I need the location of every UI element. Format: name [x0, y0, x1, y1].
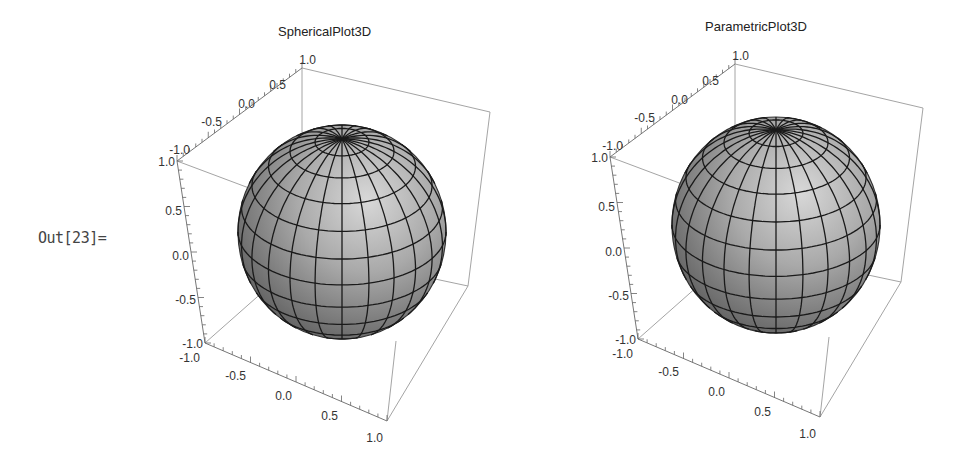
x-tick-label: 0.5 [321, 409, 338, 423]
plot-canvas[interactable]: 1.00.50.0-0.5-1.0-1.0-0.50.00.51.0-1.0-0… [0, 0, 478, 469]
y-tick-label: 0.0 [238, 97, 255, 111]
z-tick-label: 1.0 [591, 151, 608, 165]
z-tick-label: -1.0 [182, 337, 203, 351]
z-tick-label: 0.0 [605, 245, 622, 259]
y-tick-label: 0.5 [702, 74, 719, 88]
x-tick-label: 1.0 [799, 427, 816, 441]
box-edge [901, 108, 923, 282]
x-tick-label: -0.5 [658, 365, 679, 379]
z-tick-label: 0.5 [165, 204, 182, 218]
y-tick-label: 0.5 [269, 78, 286, 92]
x-tick-label: -1.0 [179, 351, 200, 365]
z-tick-label: -0.5 [608, 289, 629, 303]
y-tick-label: -1.0 [169, 143, 190, 157]
z-tick-label: -0.5 [175, 293, 196, 307]
z-tick-label: 0.5 [598, 200, 615, 214]
x-tick-label: -1.0 [612, 347, 633, 361]
y-tick-label: -0.5 [634, 111, 655, 125]
box-edge [735, 64, 923, 108]
x-tick-label: 0.0 [708, 385, 725, 399]
y-tick-label: 1.0 [299, 53, 316, 67]
z-tick-label: 0.0 [172, 249, 189, 263]
spherical-plot-3d[interactable]: SphericalPlot3D 1.00.50.0-0.5-1.0-1.0-0.… [0, 0, 478, 469]
z-tick-label: -1.0 [615, 333, 636, 347]
x-tick-label: 1.0 [366, 431, 383, 445]
x-tick-label: 0.5 [754, 405, 771, 419]
y-tick-label: 1.0 [732, 49, 749, 63]
parametric-plot-3d[interactable]: ParametricPlot3D 1.00.50.0-0.5-1.0-1.0-0… [433, 0, 911, 469]
x-tick-label: 0.0 [275, 389, 292, 403]
z-tick-label: 1.0 [158, 155, 175, 169]
y-tick-label: -1.0 [602, 139, 623, 153]
x-tick-label: -0.5 [225, 369, 246, 383]
y-tick-label: -0.5 [201, 115, 222, 129]
y-tick-label: 0.0 [671, 93, 688, 107]
plot-canvas[interactable]: 1.00.50.0-0.5-1.0-1.0-0.50.00.51.0-1.0-0… [433, 0, 911, 469]
